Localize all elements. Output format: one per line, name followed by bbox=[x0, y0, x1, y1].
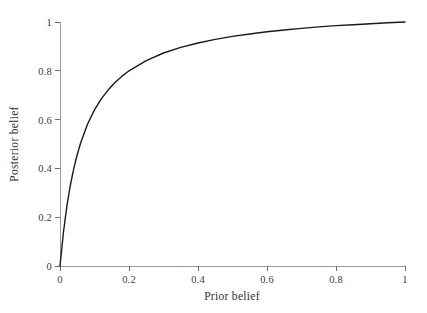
axes-group bbox=[60, 22, 405, 266]
x-tick-label: 0.4 bbox=[191, 274, 205, 285]
y-axis-title: Posterior belief bbox=[8, 106, 20, 181]
y-tick-label: 0.2 bbox=[36, 212, 52, 223]
y-tick-label: 0.8 bbox=[36, 65, 52, 76]
x-tick-label: 0 bbox=[57, 274, 62, 285]
y-tick-label: 0.6 bbox=[36, 114, 52, 125]
data-series-group bbox=[60, 22, 405, 266]
x-tick-label: 0.6 bbox=[260, 274, 274, 285]
plot-canvas bbox=[0, 0, 427, 313]
y-tick-label: 1 bbox=[36, 17, 52, 28]
x-axis-title: Prior belief bbox=[204, 290, 260, 302]
x-tick-label: 0.2 bbox=[122, 274, 136, 285]
series-line bbox=[60, 22, 405, 266]
y-tick-label: 0.4 bbox=[36, 163, 52, 174]
x-tick-label: 1 bbox=[402, 274, 407, 285]
chart-figure: Prior belief Posterior belief 00.20.40.6… bbox=[0, 0, 427, 313]
x-tick-label: 0.8 bbox=[329, 274, 343, 285]
y-tick-label: 0 bbox=[36, 261, 52, 272]
tick-marks-group bbox=[55, 22, 405, 271]
